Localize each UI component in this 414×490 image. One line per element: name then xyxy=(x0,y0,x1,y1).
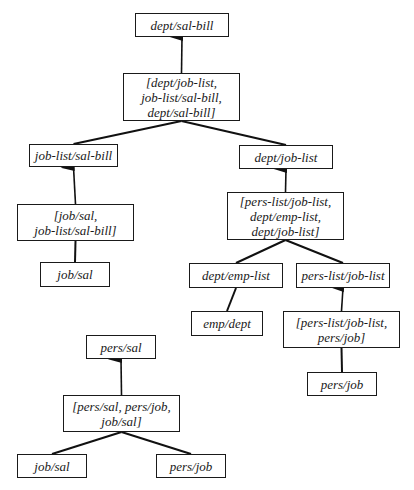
tree-edge xyxy=(74,121,182,144)
tree-edge xyxy=(342,348,343,372)
arrow-edge xyxy=(74,167,76,204)
tree-edge xyxy=(75,241,76,262)
tree-edge xyxy=(52,432,122,454)
diagram-node: job/sal xyxy=(40,262,110,287)
arrow-edge xyxy=(182,37,183,73)
diagram-node: pers/job xyxy=(307,372,377,396)
tree-edge xyxy=(182,121,287,145)
diagram-node: job/sal xyxy=(17,454,87,478)
diagram-node: pers-list/job-list xyxy=(296,263,390,288)
diagram-node: [dept/job-list, job-list/sal-bill, dept/… xyxy=(123,73,240,121)
tree-edge xyxy=(227,288,236,311)
diagram-node: pers/sal xyxy=(86,335,156,359)
diagram-node: dept/job-list xyxy=(239,145,333,169)
arrow-edge xyxy=(286,169,287,192)
diagram-node: [job/sal, job-list/sal-bill] xyxy=(17,204,134,241)
diagram-node: dept/emp-list xyxy=(189,263,283,288)
diagram-node: [pers/sal, pers/job, job/sal] xyxy=(63,395,180,432)
tree-edge xyxy=(122,432,192,454)
diagram-node: [pers-list/job-list, dept/emp-list, dept… xyxy=(227,192,344,240)
tree-edge xyxy=(286,240,344,263)
arrow-edge xyxy=(342,288,344,311)
diagram-node: emp/dept xyxy=(191,311,263,336)
tree-edge xyxy=(236,240,286,263)
diagram-node: dept/sal-bill xyxy=(135,13,229,37)
diagram-node: [pers-list/job-list, pers/job] xyxy=(283,311,400,348)
diagram-node: job-list/sal-bill xyxy=(29,144,118,167)
arrow-edge xyxy=(121,359,122,395)
diagram-node: pers/job xyxy=(156,454,226,478)
